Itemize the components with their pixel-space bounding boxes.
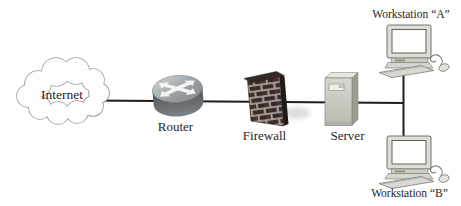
firewall-icon — [240, 66, 292, 134]
server-base-shade — [325, 122, 351, 125]
workstation-b-icon — [379, 136, 450, 189]
workstation-a-label: Workstation “A” — [372, 8, 449, 20]
internet-label: Internet — [41, 87, 83, 102]
network-diagram-canvas: Internet Router Firewall Server Workstat… — [0, 0, 461, 206]
server-drive-button — [339, 86, 344, 88]
router-label: Router — [158, 119, 194, 134]
router-icon — [151, 73, 204, 118]
server-label: Server — [331, 128, 366, 143]
firewall-label: Firewall — [243, 128, 287, 143]
network-diagram: Internet Router Firewall Server Workstat… — [0, 0, 461, 206]
internet-cloud-icon: Internet — [17, 58, 109, 124]
workstation-b-label: Workstation “B” — [371, 187, 448, 199]
server-icon — [325, 73, 358, 126]
server-side — [352, 73, 358, 126]
workstation-a-icon — [379, 25, 450, 78]
